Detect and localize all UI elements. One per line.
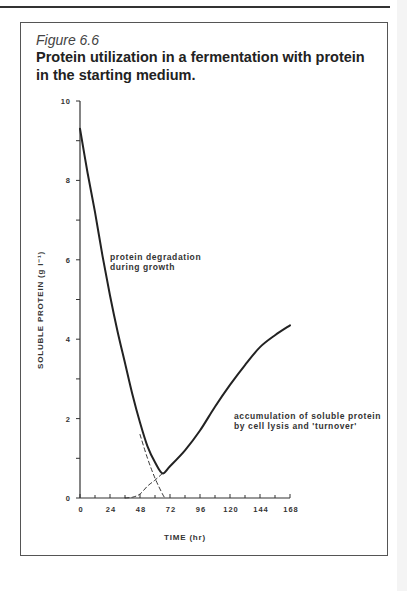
x-tick-label: 48 bbox=[136, 505, 146, 514]
x-tick-label: 168 bbox=[283, 505, 299, 514]
x-axis-label: TIME (hr) bbox=[164, 533, 206, 542]
chart-axes: 0246810024487296120144168 bbox=[61, 97, 299, 514]
y-tick-label: 4 bbox=[66, 335, 71, 344]
x-tick-label: 96 bbox=[196, 505, 206, 514]
y-tick-label: 6 bbox=[66, 256, 71, 265]
dashed-extrapolation-line bbox=[125, 473, 163, 498]
annotation-accumulation-2: by cell lysis and 'turnover' bbox=[234, 421, 357, 431]
x-tick-label: 0 bbox=[78, 505, 83, 514]
y-tick-label: 10 bbox=[61, 97, 71, 106]
x-tick-label: 144 bbox=[253, 505, 269, 514]
y-tick-label: 8 bbox=[66, 176, 71, 185]
chart-series bbox=[80, 129, 290, 498]
line-chart: 0246810024487296120144168 protein degrad… bbox=[0, 0, 407, 591]
dashed-extrapolation-line bbox=[140, 434, 165, 498]
x-tick-label: 120 bbox=[223, 505, 239, 514]
y-tick-label: 0 bbox=[66, 494, 71, 503]
x-tick-label: 24 bbox=[106, 505, 116, 514]
annotation-degradation-2: during growth bbox=[110, 262, 175, 272]
y-tick-label: 2 bbox=[66, 415, 71, 424]
x-tick-label: 72 bbox=[166, 505, 176, 514]
annotation-accumulation-1: accumulation of soluble protein bbox=[234, 411, 381, 421]
y-axis-label: SOLUBLE PROTEIN (g l⁻¹) bbox=[36, 251, 45, 369]
annotation-degradation-1: protein degradation bbox=[110, 252, 201, 262]
